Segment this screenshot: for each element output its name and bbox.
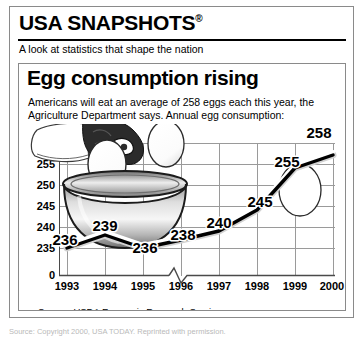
- chart-subtitle: Americans will eat an average of 258 egg…: [28, 96, 340, 121]
- chart-panel: Egg consumption rising Americans will ea…: [18, 63, 346, 311]
- data-label-1999: 255: [274, 153, 299, 170]
- y-tick-245: 245: [37, 200, 55, 212]
- page-title: USA SNAPSHOTS®: [19, 11, 202, 35]
- line-chart-svg: 260 255 250 245 240 235 0: [19, 124, 346, 311]
- snapshot-outer-frame: USA SNAPSHOTS® A look at statistics that…: [9, 6, 354, 318]
- chart-plot-area: 260 255 250 245 240 235 0: [19, 124, 346, 311]
- data-label-1997: 240: [206, 214, 231, 231]
- data-label-1995: 236: [132, 239, 157, 256]
- snapshot-page: USA SNAPSHOTS® A look at statistics that…: [0, 0, 364, 339]
- x-tick-1994: 1994: [93, 280, 118, 292]
- y-tick-250: 250: [37, 179, 55, 191]
- x-tick-1993: 1993: [55, 280, 79, 292]
- data-label-1998: 245: [247, 193, 272, 210]
- page-title-text: USA SNAPSHOTS: [19, 11, 195, 34]
- x-tick-1999: 1999: [283, 280, 307, 292]
- x-axis-labels: 1993 1994 1995 1996 1997 1998 1999 2000: [55, 280, 344, 292]
- header-tagline: A look at statistics that shape the nati…: [19, 43, 203, 55]
- data-label-1994: 239: [92, 217, 117, 234]
- copyright-caption: Source: Copyright 2000, USA TODAY. Repri…: [9, 327, 226, 336]
- egg-icon-right: [279, 164, 321, 216]
- x-tick-1995: 1995: [131, 280, 155, 292]
- egg-icon-air: [148, 124, 184, 167]
- x-tick-1997: 1997: [207, 280, 231, 292]
- registered-trademark-icon: ®: [195, 13, 202, 24]
- header-divider: [18, 39, 346, 41]
- x-tick-2000: 2000: [320, 280, 344, 292]
- data-label-2000: 258: [306, 124, 331, 141]
- x-tick-1998: 1998: [245, 280, 269, 292]
- chart-title: Egg consumption rising: [27, 66, 259, 90]
- shirt-cuff-icon: [31, 124, 89, 162]
- x-tick-1996: 1996: [169, 280, 193, 292]
- data-label-1993: 236: [52, 231, 77, 248]
- chart-source: Source: USDA Economic Research Service: [38, 306, 221, 311]
- data-label-1996: 238: [170, 226, 195, 243]
